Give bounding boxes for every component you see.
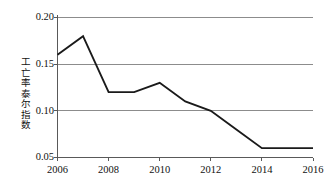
plot-area: [0, 0, 324, 188]
y-tick-marks: [54, 18, 58, 158]
axis-lines: [58, 15, 314, 158]
data-series-line: [58, 36, 314, 148]
x-tick-marks: [58, 158, 314, 162]
chart-figure: 工亡率泰尔指数 0.050.100.150.20 （年份） 2006200820…: [0, 0, 324, 188]
